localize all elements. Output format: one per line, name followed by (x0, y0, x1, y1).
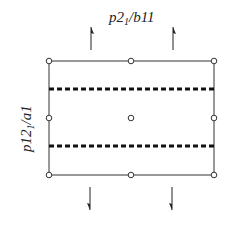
screw-axis-down-icon (169, 187, 172, 210)
top-label: p21/b11 (108, 9, 155, 27)
inversion-center-icon (46, 115, 52, 121)
screw-axis-up-icon (173, 27, 176, 50)
screw-axes-bottom (87, 187, 172, 210)
screw-axis-down-icon (87, 187, 90, 210)
inversion-center-icon (46, 172, 52, 178)
inversion-center-icon (211, 115, 217, 121)
screw-axis-up-icon (91, 27, 94, 50)
inversion-center-icon (128, 172, 134, 178)
svg-text:p121/a1: p121/a1 (18, 105, 36, 153)
inversion-center-icon (128, 115, 134, 121)
screw-axes-top (91, 27, 176, 50)
inversion-center-icon (211, 58, 217, 64)
inversion-center-icon (211, 172, 217, 178)
inversion-center-icon (128, 58, 134, 64)
space-group-diagram: p21/b11 p121/a1 (0, 0, 230, 229)
side-label: p121/a1 (18, 105, 36, 153)
inversion-center-icon (46, 58, 52, 64)
inversion-centers (46, 58, 217, 178)
